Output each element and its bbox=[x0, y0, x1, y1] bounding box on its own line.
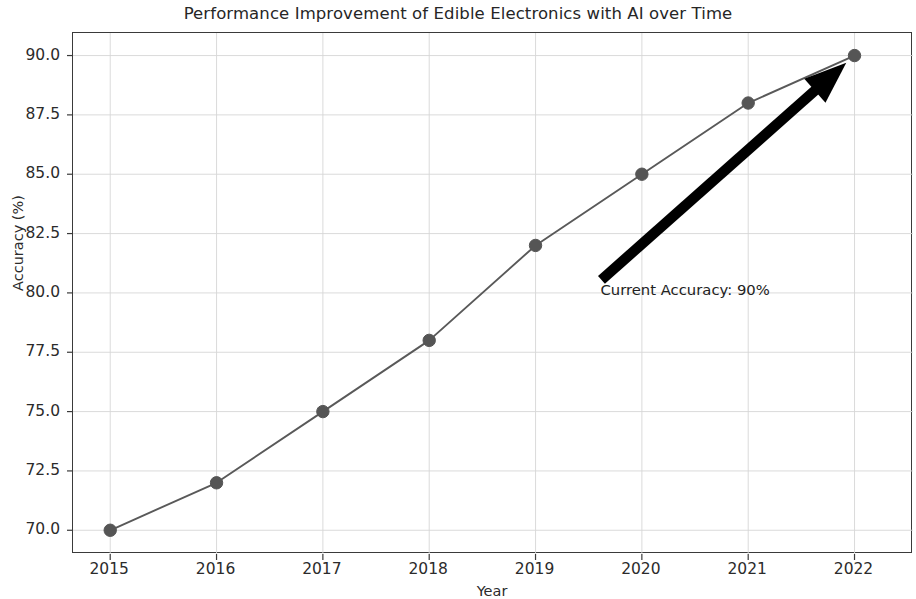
y-tick-label: 77.5 bbox=[25, 342, 60, 360]
data-point-marker: 2022: 90% bbox=[848, 49, 860, 61]
x-axis-label: Year bbox=[72, 583, 912, 599]
x-tick-label: 2021 bbox=[727, 560, 766, 578]
chart-figure: Performance Improvement of Edible Electr… bbox=[0, 0, 916, 599]
current-accuracy-annotation: Current Accuracy: 90% bbox=[600, 281, 769, 298]
y-tick-label: 75.0 bbox=[25, 402, 60, 420]
data-point-marker: 2016: 72% bbox=[210, 477, 222, 489]
y-tick-label: 85.0 bbox=[25, 164, 60, 182]
y-tick-label: 90.0 bbox=[25, 46, 60, 64]
data-point-marker: 2021: 88% bbox=[742, 97, 754, 109]
arrow-shaft bbox=[598, 83, 823, 284]
x-tick-label: 2017 bbox=[302, 560, 341, 578]
y-tick-label: 72.5 bbox=[25, 461, 60, 479]
data-point-marker: 2015: 70% bbox=[104, 524, 116, 536]
plot-svg: 2015: 70%2016: 72%2017: 75%2018: 78%2019… bbox=[73, 33, 913, 554]
x-tick-label: 2020 bbox=[621, 560, 660, 578]
y-tick-label: 87.5 bbox=[25, 105, 60, 123]
data-point-marker: 2019: 82% bbox=[529, 239, 541, 251]
y-tick-label: 70.0 bbox=[25, 520, 60, 538]
y-tick-label: 80.0 bbox=[25, 283, 60, 301]
y-axis-tick-labels: 70.072.575.077.580.082.585.087.590.0 bbox=[0, 32, 60, 553]
x-tick-label: 2016 bbox=[196, 560, 235, 578]
x-tick-label: 2015 bbox=[89, 560, 128, 578]
y-axis-label: Accuracy (%) bbox=[10, 173, 26, 313]
x-tick-label: 2022 bbox=[834, 560, 873, 578]
chart-title: Performance Improvement of Edible Electr… bbox=[0, 4, 916, 23]
plot-area: 2015: 70%2016: 72%2017: 75%2018: 78%2019… bbox=[72, 32, 912, 553]
data-point-marker: 2020: 85% bbox=[636, 168, 648, 180]
y-tick-label: 82.5 bbox=[25, 224, 60, 242]
x-axis-tick-labels: 20152016201720182019202020212022 bbox=[72, 560, 912, 582]
x-tick-label: 2019 bbox=[515, 560, 554, 578]
data-point-marker: 2018: 78% bbox=[423, 334, 435, 346]
data-point-marker: 2017: 75% bbox=[317, 405, 329, 417]
x-tick-label: 2018 bbox=[408, 560, 447, 578]
axis-tick-marks bbox=[67, 56, 855, 560]
